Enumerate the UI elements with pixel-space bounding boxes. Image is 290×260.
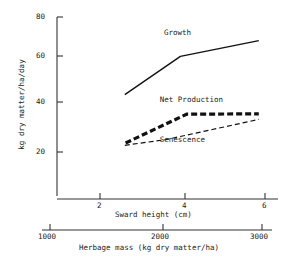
y-axis-title: kg dry matter/ha/day — [17, 40, 26, 170]
y-tick-label-80: 80 — [36, 12, 45, 21]
series-label-growth: Growth — [164, 28, 191, 37]
x-tick-label-4: 4 — [182, 201, 187, 210]
secondary-x-tick-label-1000: 1000 — [38, 232, 56, 241]
x-tick-label-6: 6 — [262, 201, 267, 210]
x-axis-title: Sward height (cm) — [115, 210, 192, 219]
y-tick-label-40: 40 — [36, 97, 45, 106]
chart-figure: kg dry matter/ha/day 80 60 40 20 2 4 6 S… — [0, 0, 290, 260]
series-label-net-production: Net Production — [160, 95, 223, 104]
x-tick-label-2: 2 — [97, 201, 102, 210]
y-tick-label-20: 20 — [36, 147, 45, 156]
y-tick-label-60: 60 — [36, 51, 45, 60]
secondary-x-tick-label-3000: 3000 — [250, 232, 268, 241]
secondary-x-axis-title: Herbage mass (kg dry matter/ha) — [79, 243, 219, 252]
y-axis-ticks — [57, 17, 63, 152]
secondary-x-tick-label-2000: 2000 — [151, 232, 169, 241]
series-line-growth — [125, 41, 259, 95]
secondary-x-axis-ticks — [50, 224, 262, 230]
series-label-senescence: Senescence — [160, 135, 205, 144]
x-axis-ticks — [100, 193, 265, 199]
chart-plot-area — [0, 0, 290, 260]
